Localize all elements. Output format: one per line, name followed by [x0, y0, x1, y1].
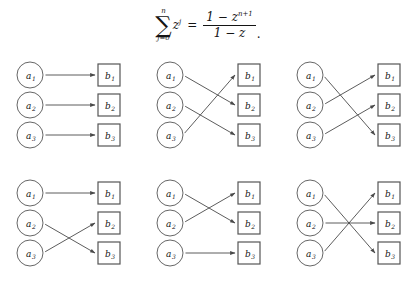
equals-sign: =	[187, 18, 197, 32]
domain-node-group: a1a2a3	[297, 62, 323, 148]
transposition-13-panel: a1a2a3b1b2b3	[282, 168, 416, 280]
edge-a1-to-b2	[185, 76, 235, 105]
cycle-132-panel: a1a2a3b1b2b3	[282, 50, 416, 162]
summation-operator: n ∑ j=0	[155, 8, 171, 43]
edge-a3-to-b1	[325, 193, 375, 251]
summation-lower-limit: j=0	[157, 35, 170, 42]
transposition-23-panel: a1a2a3b1b2b3	[2, 168, 140, 280]
edge-a3-to-b2	[45, 223, 95, 252]
summand: zj	[173, 18, 182, 32]
sigma-icon: ∑	[155, 15, 171, 36]
domain-node-group: a1a2a3	[17, 180, 43, 266]
edge-a3-to-b2	[325, 105, 375, 134]
numerator-text: 1 − z	[206, 10, 238, 24]
domain-node-group: a1a2a3	[17, 62, 43, 148]
codomain-node-group: b1b2b3	[238, 182, 260, 264]
numerator-exponent: n+1	[238, 10, 253, 18]
edge-group	[185, 75, 235, 135]
summand-exponent: j	[179, 18, 181, 26]
edge-a2-to-b3	[185, 106, 235, 135]
domain-node-group: a1a2a3	[297, 180, 323, 266]
edge-a1-to-b2	[185, 194, 235, 223]
edge-a1-to-b3	[325, 77, 375, 135]
codomain-node-group: b1b2b3	[378, 64, 400, 146]
codomain-node-group: b1b2b3	[378, 182, 400, 264]
edge-a2-to-b1	[185, 193, 235, 222]
formula-period: .	[257, 27, 261, 41]
edge-a2-to-b3	[45, 224, 95, 253]
edge-group	[325, 75, 375, 135]
permutation-diagram-grid: a1a2a3b1b2b3a1a2a3b1b2b3a1a2a3b1b2b3a1a2…	[0, 50, 416, 281]
codomain-node-group: b1b2b3	[238, 64, 260, 146]
edge-group	[45, 193, 95, 253]
edge-a1-to-b3	[325, 195, 375, 253]
codomain-node-group: b1b2b3	[98, 182, 120, 264]
edge-a3-to-b1	[185, 75, 235, 133]
cycle-123-panel: a1a2a3b1b2b3	[142, 50, 280, 162]
figure-page: n ∑ j=0 zj = 1 − zn+1 1 − z . a1a2a3b1b2…	[0, 0, 416, 281]
formula-block: n ∑ j=0 zj = 1 − zn+1 1 − z .	[0, 4, 416, 46]
edge-group	[325, 193, 375, 253]
edge-group	[185, 193, 235, 253]
edge-group	[46, 75, 96, 135]
domain-node-group: a1a2a3	[157, 62, 183, 148]
fraction-denominator: 1 − z	[211, 26, 249, 41]
fraction-numerator: 1 − zn+1	[203, 10, 255, 25]
fraction: 1 − zn+1 1 − z	[203, 10, 255, 41]
edge-a2-to-b1	[325, 75, 375, 104]
domain-node-group: a1a2a3	[157, 180, 183, 266]
transposition-12-panel: a1a2a3b1b2b3	[142, 168, 280, 280]
identity-permutation-panel: a1a2a3b1b2b3	[2, 50, 140, 162]
codomain-node-group: b1b2b3	[98, 64, 120, 146]
geometric-series-formula: n ∑ j=0 zj = 1 − zn+1 1 − z .	[155, 8, 260, 43]
